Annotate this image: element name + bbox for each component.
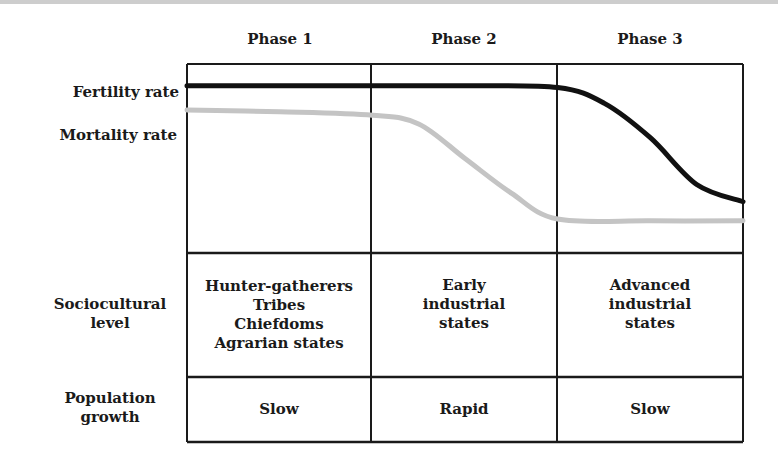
population-growth-cell-phase-3: Slow	[557, 377, 743, 442]
population-growth-cell-phase-1: Slow	[187, 377, 371, 442]
mortality-rate-line	[187, 110, 743, 222]
cell-line: Chiefdoms	[234, 315, 323, 334]
cell-line: states	[625, 314, 675, 333]
cell-line: Advanced	[610, 276, 691, 295]
fertility-rate-line	[187, 86, 743, 202]
sociocultural-cell-phase-1: Hunter-gatherers Tribes Chiefdoms Agrari…	[187, 253, 371, 377]
sociocultural-cell-phase-2: Early industrial states	[371, 253, 557, 377]
cell-line: Early	[442, 276, 485, 295]
cell-line: states	[439, 314, 489, 333]
cell-line: Hunter-gatherers	[205, 277, 353, 296]
cell-line: industrial	[423, 295, 505, 314]
population-growth-cell-phase-2: Rapid	[371, 377, 557, 442]
cell-line: Tribes	[253, 296, 305, 315]
cell-line: Agrarian states	[214, 334, 343, 353]
sociocultural-cell-phase-3: Advanced industrial states	[557, 253, 743, 377]
cell-line: industrial	[609, 295, 691, 314]
